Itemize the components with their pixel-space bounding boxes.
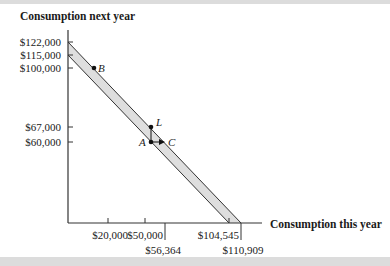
x-axis-title: Consumption this year xyxy=(270,218,382,231)
point-b xyxy=(92,66,97,71)
x-label-56364: $56,364 xyxy=(145,244,181,256)
x-label-20000: $20,000 xyxy=(92,229,128,241)
x-label-104545: $104,545 xyxy=(198,229,240,241)
point-c-label: C xyxy=(168,136,176,148)
y-axis-title: Consumption next year xyxy=(20,10,135,23)
point-b-label: B xyxy=(98,62,105,74)
y-label-60000: $60,000 xyxy=(25,136,61,148)
budget-constraint-chart: Consumption next year Consumption this y… xyxy=(0,0,390,266)
point-l xyxy=(149,125,154,130)
lower-budget-line xyxy=(68,55,229,223)
x-label-50000: $50,000 xyxy=(127,229,163,241)
y-label-100000: $100,000 xyxy=(20,62,62,74)
point-l-label: L xyxy=(155,116,162,128)
y-label-122000: $122,000 xyxy=(20,36,62,48)
y-label-115000: $115,000 xyxy=(20,49,61,61)
x-label-110909: $110,909 xyxy=(223,244,264,256)
y-label-67000: $67,000 xyxy=(25,121,61,133)
point-a-label: A xyxy=(138,136,146,148)
